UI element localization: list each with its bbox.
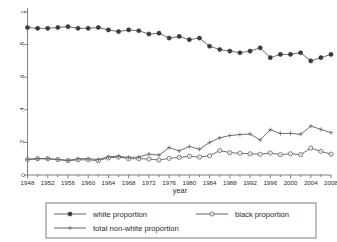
series-line bbox=[28, 27, 332, 61]
data-point-marker-dot bbox=[209, 155, 210, 156]
x-tick-label: 1968 bbox=[122, 179, 136, 186]
series-layer bbox=[25, 25, 333, 163]
data-point-marker bbox=[177, 149, 181, 153]
x-tick-label: 1980 bbox=[182, 179, 196, 186]
data-point-marker bbox=[137, 29, 141, 33]
data-point-marker-dot bbox=[179, 157, 180, 158]
data-point-marker-dot bbox=[300, 154, 301, 155]
data-point-marker bbox=[36, 26, 40, 30]
legend-box bbox=[46, 203, 316, 238]
data-point-marker bbox=[329, 52, 333, 56]
data-point-marker bbox=[177, 34, 181, 38]
x-tick-label: 1972 bbox=[142, 179, 156, 186]
data-point-marker-dot bbox=[229, 152, 230, 153]
x-tick-label: 1996 bbox=[263, 179, 277, 186]
data-point-marker bbox=[238, 132, 242, 136]
y-tick-label: .8 bbox=[19, 41, 26, 47]
data-point-marker bbox=[127, 28, 131, 32]
data-point-marker bbox=[116, 29, 120, 33]
data-point-marker bbox=[238, 51, 242, 55]
data-point-marker bbox=[218, 47, 222, 51]
data-point-marker bbox=[228, 49, 232, 53]
data-point-marker-dot bbox=[260, 154, 261, 155]
data-point-marker bbox=[197, 36, 201, 40]
series-white-proportion bbox=[25, 25, 333, 63]
data-point-marker bbox=[66, 25, 70, 29]
data-point-marker-dot bbox=[199, 157, 200, 158]
x-tick-label: 1952 bbox=[41, 179, 55, 186]
chart-legend: white proportionblack proportiontotal no… bbox=[46, 203, 316, 238]
data-point-marker-dot bbox=[320, 151, 321, 152]
data-point-marker-dot bbox=[189, 156, 190, 157]
x-tick-label: 2008 bbox=[324, 179, 337, 186]
y-tick-label: .2 bbox=[19, 139, 26, 145]
x-tick-label: 1956 bbox=[61, 179, 75, 186]
data-point-marker-dot bbox=[211, 213, 212, 214]
legend-label: white proportion bbox=[92, 210, 147, 219]
y-tick-label: .4 bbox=[19, 107, 26, 113]
x-tick-label: 1984 bbox=[203, 179, 217, 186]
chart-figure: 0.2.4.6.81 19481952195619601964196819721… bbox=[0, 0, 337, 242]
series-black-proportion bbox=[25, 146, 333, 163]
x-tick-label: 1948 bbox=[21, 179, 35, 186]
data-point-marker bbox=[329, 131, 333, 135]
line-chart: 0.2.4.6.81 19481952195619601964196819721… bbox=[0, 0, 337, 242]
data-point-marker bbox=[187, 38, 191, 42]
data-point-marker bbox=[309, 59, 313, 63]
x-tick-label: 1964 bbox=[102, 179, 116, 186]
x-tick-label: 1976 bbox=[162, 179, 176, 186]
data-point-marker bbox=[278, 52, 282, 56]
data-point-marker bbox=[288, 131, 292, 135]
data-point-marker-dot bbox=[250, 153, 251, 154]
data-point-marker bbox=[218, 136, 222, 140]
data-point-marker-dot bbox=[280, 154, 281, 155]
legend-label: total non-white proportion bbox=[93, 224, 179, 233]
data-point-marker bbox=[56, 25, 60, 29]
data-point-marker-dot bbox=[148, 158, 149, 159]
data-point-marker bbox=[319, 127, 323, 131]
data-point-marker-dot bbox=[270, 152, 271, 153]
data-point-marker bbox=[25, 25, 29, 29]
data-point-marker bbox=[76, 26, 80, 30]
data-point-marker bbox=[86, 26, 90, 30]
data-point-marker-dot bbox=[310, 148, 311, 149]
data-point-marker-dot bbox=[169, 158, 170, 159]
data-point-marker bbox=[147, 32, 151, 36]
data-point-marker-dot bbox=[330, 154, 331, 155]
y-tick-label: .6 bbox=[19, 74, 26, 80]
x-tick-label: 1992 bbox=[243, 179, 257, 186]
data-point-marker bbox=[258, 46, 262, 50]
data-point-marker-dot bbox=[219, 150, 220, 151]
y-axis-ticks: 0.2.4.6.81 bbox=[19, 10, 28, 177]
data-point-marker-dot bbox=[158, 159, 159, 160]
data-point-marker bbox=[248, 49, 252, 53]
x-tick-label: 1960 bbox=[81, 179, 95, 186]
x-tick-label: 2000 bbox=[284, 179, 298, 186]
data-point-marker bbox=[319, 56, 323, 60]
y-tick-label: 0 bbox=[19, 173, 26, 177]
data-point-marker bbox=[268, 56, 272, 60]
data-point-marker bbox=[187, 144, 191, 148]
x-axis-title: year bbox=[173, 186, 188, 195]
data-point-marker-dot bbox=[290, 153, 291, 154]
data-point-marker bbox=[106, 28, 110, 32]
data-point-marker-dot bbox=[239, 153, 240, 154]
data-point-marker bbox=[147, 152, 151, 156]
data-point-marker bbox=[46, 26, 50, 30]
x-tick-label: 1988 bbox=[223, 179, 237, 186]
y-tick-label: 1 bbox=[19, 10, 26, 14]
data-point-marker bbox=[299, 51, 303, 55]
data-point-marker bbox=[68, 212, 72, 216]
data-point-marker bbox=[228, 133, 232, 137]
x-axis-ticks: 1948195219561960196419681972197619801984… bbox=[21, 175, 337, 186]
data-point-marker bbox=[96, 25, 100, 29]
data-point-marker bbox=[248, 132, 252, 136]
x-tick-label: 2004 bbox=[304, 179, 318, 186]
legend-label: black proportion bbox=[235, 210, 289, 219]
data-point-marker bbox=[167, 36, 171, 40]
data-point-marker bbox=[157, 31, 161, 35]
data-point-marker bbox=[208, 44, 212, 48]
data-point-marker bbox=[288, 52, 292, 56]
data-point-marker bbox=[278, 131, 282, 135]
